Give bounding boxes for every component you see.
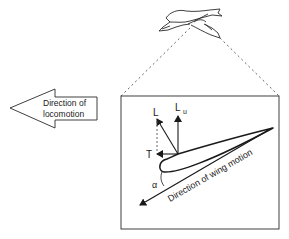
lift-label: L xyxy=(153,107,159,118)
projection-line-left xyxy=(121,28,190,96)
thrust-label: T xyxy=(146,149,152,160)
lift-upward-subscript: u xyxy=(183,108,187,115)
locomotion-label-line1: Direction of xyxy=(43,98,87,108)
bird-icon xyxy=(159,9,222,38)
lift-upward-label: L xyxy=(175,102,181,113)
locomotion-label-line2: locomotion xyxy=(43,109,84,119)
flight-aerodynamics-diagram: Direction of locomotion Direction of win… xyxy=(0,0,289,239)
projection-line-right xyxy=(220,38,279,96)
angle-of-attack-label: α xyxy=(152,180,157,190)
